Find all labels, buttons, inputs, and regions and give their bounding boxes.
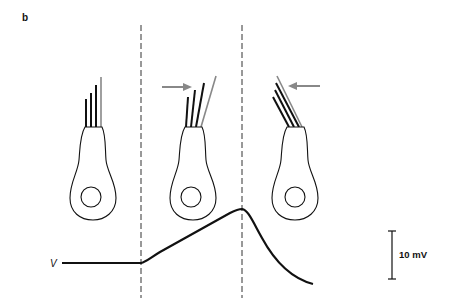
- scale-bar-label: 10 mV: [399, 249, 428, 260]
- arrow-right-icon: [162, 83, 192, 91]
- voltage-trace: [62, 209, 313, 284]
- panel-label: b: [22, 12, 28, 23]
- nucleus: [285, 187, 305, 207]
- scale-bar: 10 mV: [388, 231, 428, 279]
- hair-cell-diagram: b V: [0, 0, 453, 302]
- arrow-left-icon: [288, 82, 320, 90]
- hair-cell-resting: [70, 77, 116, 220]
- hair-cell-hyperpolarized: [272, 76, 320, 220]
- nucleus: [181, 187, 201, 207]
- nucleus: [81, 187, 101, 207]
- hair-cell-depolarized: [162, 76, 216, 220]
- voltage-label: V: [50, 258, 58, 269]
